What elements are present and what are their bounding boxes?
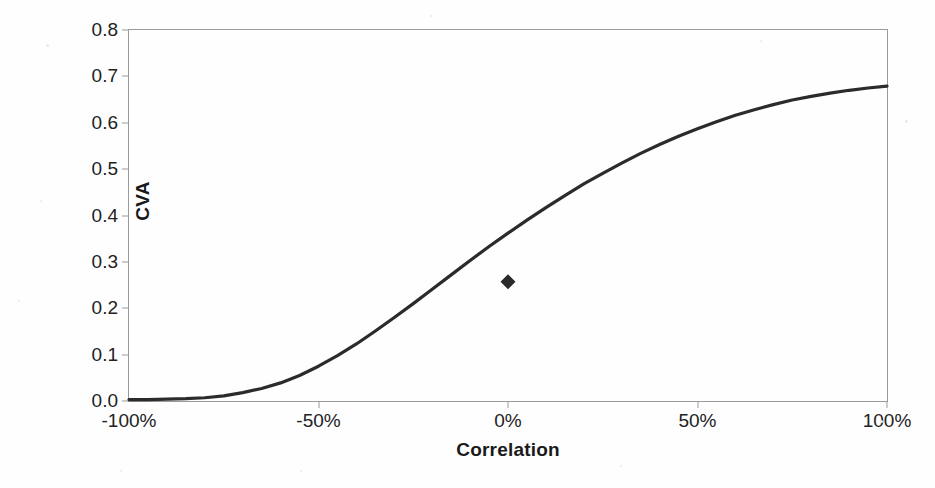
chart-figure: CVA Correlation 0.00.10.20.30.40.50.60.7… (0, 0, 935, 488)
y-tick-label: 0.2 (92, 297, 118, 319)
y-tick-mark (122, 308, 129, 309)
y-tick-label: 0.0 (92, 390, 118, 412)
x-axis-title: Correlation (129, 439, 887, 461)
x-tick-label: -100% (102, 410, 157, 432)
scan-artifact (40, 200, 42, 202)
cva-line-series (129, 86, 887, 400)
scan-artifact (430, 15, 432, 17)
x-tick-mark (697, 401, 698, 408)
y-tick-label: 0.4 (92, 205, 118, 227)
scan-artifact (18, 300, 20, 302)
y-tick-label: 0.6 (92, 112, 118, 134)
x-tick-label: 50% (678, 410, 716, 432)
y-tick-mark (122, 261, 129, 262)
scan-artifact (905, 120, 908, 123)
y-tick-label: 0.5 (92, 158, 118, 180)
scan-artifact (300, 470, 302, 472)
y-tick-label: 0.7 (92, 65, 118, 87)
y-tick-mark (122, 169, 129, 170)
y-tick-mark (122, 354, 129, 355)
x-tick-label: -50% (296, 410, 340, 432)
x-tick-label: 0% (494, 410, 521, 432)
y-tick-label: 0.3 (92, 251, 118, 273)
x-tick-mark (318, 401, 319, 408)
plot-area: CVA Correlation 0.00.10.20.30.40.50.60.7… (128, 29, 888, 402)
y-tick-mark (122, 76, 129, 77)
x-tick-mark (508, 401, 509, 408)
y-tick-label: 0.8 (92, 19, 118, 41)
x-tick-mark (887, 401, 888, 408)
series-layer (129, 30, 887, 401)
scan-artifact (880, 420, 883, 423)
scan-artifact (760, 40, 762, 42)
y-tick-mark (122, 215, 129, 216)
y-tick-mark (122, 122, 129, 123)
scan-artifact (120, 470, 122, 472)
y-tick-label: 0.1 (92, 344, 118, 366)
x-tick-label: 100% (863, 410, 912, 432)
marker-layer (501, 274, 516, 289)
y-tick-mark (122, 30, 129, 31)
scan-artifact (620, 465, 622, 467)
base-case-point (501, 274, 516, 289)
scan-artifact (46, 44, 49, 47)
